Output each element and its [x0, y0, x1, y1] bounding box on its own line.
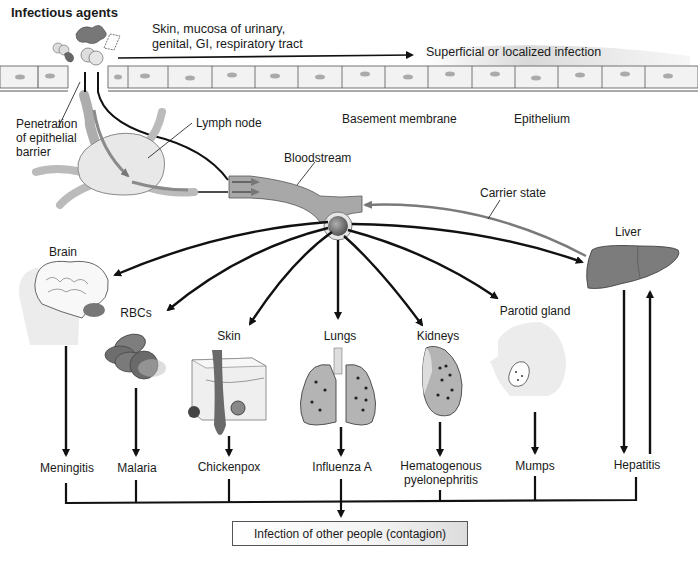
disease-label-hepatitis: Hepatitis: [614, 458, 661, 472]
carrier-state-label: Carrier state: [480, 186, 546, 200]
penetration-label-line2: of epithelial: [16, 131, 77, 145]
organ-label-skin: Skin: [217, 329, 240, 343]
disease-label-pyelonephritis-line2: pyelonephritis: [404, 473, 478, 487]
epithelium-right: [108, 66, 698, 91]
organ-label-lungs: Lungs: [324, 329, 357, 343]
disease-label-chickenpox: Chickenpox: [198, 460, 261, 474]
organ-label-liver: Liver: [615, 225, 641, 239]
bloodstream-label: Bloodstream: [284, 151, 351, 165]
superficial-infection-label: Superficial or localized infection: [426, 45, 601, 59]
kidney-icon: [422, 346, 462, 415]
infectious-agents-title: Infectious agents: [11, 6, 118, 20]
infectious-agents-icon: [53, 25, 120, 65]
disease-label-malaria: Malaria: [117, 461, 156, 475]
bloodstream-pointer: [297, 162, 315, 185]
contagion-collector: [66, 476, 636, 516]
penetration-label-line1: Penetration: [16, 117, 77, 131]
organ-label-parotid: Parotid gland: [500, 304, 571, 318]
contagion-box: Infection of other people (contagion): [232, 521, 468, 546]
brain-icon: [19, 261, 108, 345]
disease-label-pyelonephritis-line1: Hematogenous: [400, 459, 481, 473]
organ-label-kidneys: Kidneys: [417, 329, 460, 343]
entry-sites-line2: genital, GI, respiratory tract: [152, 37, 303, 51]
rbcs-icon: [105, 330, 166, 379]
disease-label-influenza: Influenza A: [312, 460, 371, 474]
basement-membrane-label: Basement membrane: [342, 112, 457, 126]
skin-icon: [188, 350, 266, 435]
organ-label-rbcs: RBCs: [120, 306, 151, 320]
penetration-label-line3: barrier: [16, 145, 51, 159]
lymph-node-label: Lymph node: [196, 116, 262, 130]
disease-label-meningitis: Meningitis: [40, 461, 94, 475]
disease-label-mumps: Mumps: [515, 459, 554, 473]
liver-icon: [587, 246, 679, 289]
entry-sites-line1: Skin, mucosa of urinary,: [152, 22, 285, 36]
bloodstream-vessel-icon: [229, 176, 362, 240]
carrier-state-arrow: [365, 205, 586, 256]
superficial-arrow: [118, 55, 412, 58]
diagram-canvas: [0, 0, 698, 561]
lungs-icon: [300, 348, 375, 425]
epithelium-label: Epithelium: [514, 112, 570, 126]
epithelium-left: [0, 66, 68, 91]
organ-label-brain: Brain: [49, 245, 77, 259]
parotid-gland-icon: [490, 322, 566, 396]
